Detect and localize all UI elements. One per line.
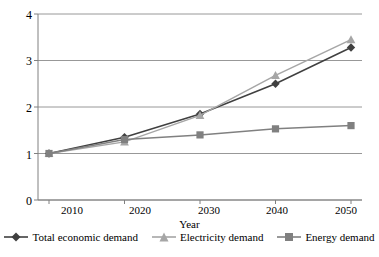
marker-energy-demand-2030 xyxy=(196,131,203,138)
marker-total-economic-demand-2050 xyxy=(347,43,355,51)
line-chart: 4 3 2 1 0 2010 2020 2030 2040 2050 Year … xyxy=(0,0,379,257)
legend-item-energy-demand[interactable]: Energy demand xyxy=(277,231,374,243)
xtick-label-2010: 2010 xyxy=(49,205,95,216)
legend-label-total-economic-demand: Total economic demand xyxy=(32,232,138,243)
ytick-label-0: 0 xyxy=(6,195,32,207)
marker-energy-demand-2020 xyxy=(121,136,128,143)
legend-label-energy-demand: Energy demand xyxy=(305,232,374,243)
marker-electricity-demand-2040 xyxy=(271,71,280,79)
legend-item-total-economic-demand[interactable]: Total economic demand xyxy=(4,231,138,243)
diamond-marker-icon xyxy=(4,231,28,243)
marker-energy-demand-2050 xyxy=(347,122,354,129)
marker-energy-demand-2010 xyxy=(45,150,52,157)
series-line-energy-demand xyxy=(49,126,351,154)
x-axis-title: Year xyxy=(0,219,379,230)
chart-legend: Total economic demand Electricity demand… xyxy=(0,231,379,243)
legend-item-electricity-demand[interactable]: Electricity demand xyxy=(152,231,263,243)
ytick-label-2: 2 xyxy=(6,102,32,114)
marker-total-economic-demand-2040 xyxy=(271,80,279,88)
ytick-label-3: 3 xyxy=(6,55,32,67)
legend-label-electricity-demand: Electricity demand xyxy=(180,232,263,243)
ytick-label-1: 1 xyxy=(6,149,32,161)
marker-energy-demand-2040 xyxy=(272,125,279,132)
xtick-label-2030: 2030 xyxy=(186,205,232,216)
square-marker-icon xyxy=(277,231,301,243)
xtick-label-2020: 2020 xyxy=(117,205,163,216)
ytick-label-4: 4 xyxy=(6,9,32,21)
xtick-label-2040: 2040 xyxy=(254,205,300,216)
marker-electricity-demand-2050 xyxy=(347,35,356,43)
triangle-marker-icon xyxy=(152,231,176,243)
xtick-label-2050: 2050 xyxy=(323,205,369,216)
